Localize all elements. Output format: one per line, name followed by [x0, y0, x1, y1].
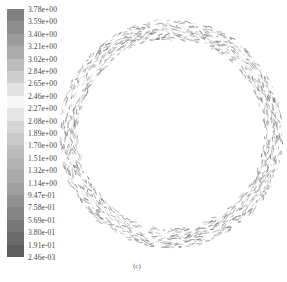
figure-caption: (c) [133, 262, 141, 270]
vector-arrows [59, 19, 282, 248]
velocity-vector-plot [0, 0, 287, 282]
